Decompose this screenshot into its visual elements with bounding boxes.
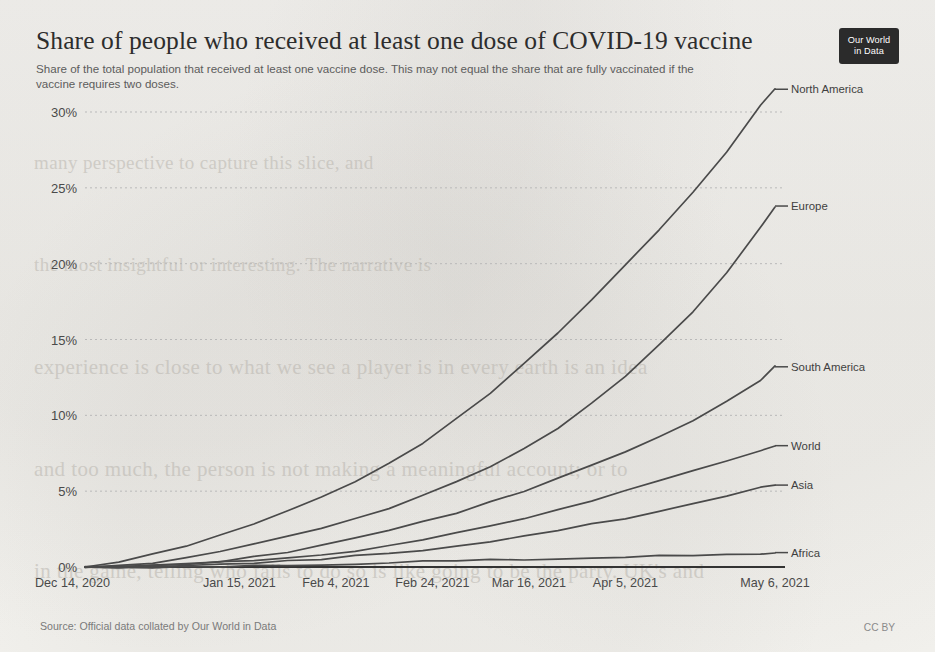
y-axis-tick-15: 15% <box>25 332 77 347</box>
series-label-asia[interactable]: Asia <box>791 479 813 491</box>
series-label-south-america[interactable]: South America <box>791 361 865 373</box>
x-axis-tick-0: Dec 14, 2020 <box>35 576 110 590</box>
series-label-europe[interactable]: Europe <box>791 200 828 212</box>
x-axis-tick-3: Feb 24, 2021 <box>395 576 469 590</box>
x-axis-tick-4: Mar 16, 2021 <box>492 576 566 590</box>
y-axis-tick-0: 0% <box>25 560 77 575</box>
source-note: Source: Official data collated by Our Wo… <box>40 620 276 632</box>
series-label-africa[interactable]: Africa <box>791 547 820 559</box>
y-axis-tick-20: 20% <box>25 256 77 271</box>
series-label-world[interactable]: World <box>791 440 821 452</box>
y-axis-tick-10: 10% <box>25 408 77 423</box>
y-axis-tick-30: 30% <box>25 105 77 120</box>
x-axis-tick-6: May 6, 2021 <box>740 576 809 590</box>
x-axis-tick-5: Apr 5, 2021 <box>593 576 658 590</box>
x-axis-tick-2: Feb 4, 2021 <box>302 576 369 590</box>
y-axis-tick-5: 5% <box>25 484 77 499</box>
license-note: CC BY <box>864 622 895 633</box>
chart-figure: Share of people who received at least on… <box>0 0 935 652</box>
series-label-north-america[interactable]: North America <box>791 83 863 95</box>
x-axis-tick-1: Jan 15, 2021 <box>203 576 276 590</box>
y-axis-tick-25: 25% <box>25 180 77 195</box>
